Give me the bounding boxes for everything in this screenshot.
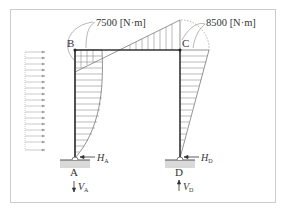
moment-diagram: B C A D 7500 [N·m] 8500 [N·m] HA HD VA V… [0, 0, 283, 213]
label-d: D [175, 166, 183, 178]
label-b: B [67, 37, 74, 49]
label-c: C [182, 37, 189, 49]
label-a: A [70, 166, 78, 178]
moment-label-b: 7500 [N·m] [96, 17, 146, 28]
moment-label-c: 8500 [N·m] [206, 17, 256, 28]
